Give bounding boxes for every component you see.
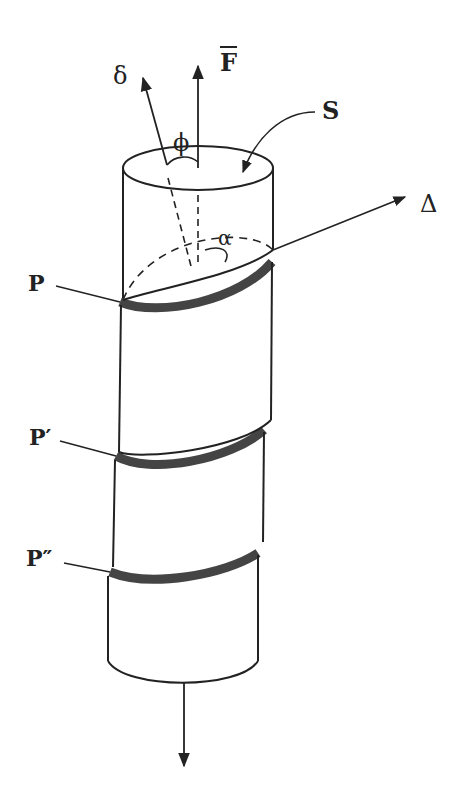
alpha-label: α	[218, 226, 232, 250]
slip-band-p	[120, 262, 272, 308]
area-label: S	[322, 96, 339, 125]
plane-p-double-prime-label: P″	[26, 545, 52, 571]
normal-label: Δ	[420, 190, 437, 218]
slip-band-p-double-prime	[110, 553, 258, 579]
plane-p-prime-label: P′	[29, 424, 51, 450]
area-pointer	[243, 112, 315, 172]
force-label: F	[220, 48, 237, 77]
slip-direction-label: δ	[113, 62, 127, 90]
phi-label: ϕ	[173, 129, 189, 157]
normal-arrow	[273, 197, 405, 250]
plane-p-label: P	[28, 270, 45, 296]
cylinder-diagram	[0, 0, 459, 807]
slip-band-p-prime	[116, 430, 264, 464]
